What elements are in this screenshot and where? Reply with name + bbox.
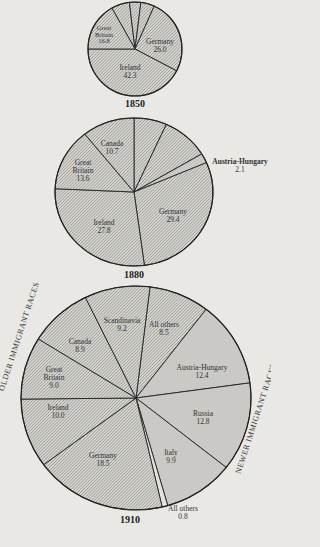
year-label-1880: 1880 <box>124 269 144 280</box>
label-1880-austria-hungary: Austria-Hungary2.1 <box>212 158 267 174</box>
label-1910-ireland: Ireland10.0 <box>47 404 68 420</box>
label-1910-all-others: All others8.5 <box>149 321 179 337</box>
year-label-1850: 1850 <box>125 98 145 109</box>
label-1850-germany: Germany26.0 <box>146 38 174 54</box>
label-1910-all-others-small: All others0.8 <box>168 505 198 521</box>
label-1910-great-britain: GreatBritain9.0 <box>44 366 65 390</box>
label-1880-canada: Canada10.7 <box>101 140 124 156</box>
label-1910-scandinavia: Scandinavia9.2 <box>104 317 141 333</box>
label-1880-great-britain: GreatBritain13.6 <box>73 159 94 183</box>
label-1910-russia: Russia12.8 <box>193 410 213 426</box>
label-1880-germany: Germany29.4 <box>159 208 187 224</box>
label-1910-canada: Canada8.9 <box>69 338 92 354</box>
label-1850-ireland: Ireland42.3 <box>119 64 140 80</box>
label-1910-austria-hungary: Austria-Hungary12.4 <box>177 364 228 380</box>
label-1910-italy: Italy9.9 <box>164 449 178 465</box>
label-1880-ireland: Ireland27.8 <box>93 219 114 235</box>
label-1910-germany: Germany18.5 <box>89 452 117 468</box>
label-1850-great-britain: GreatBritain16.8 <box>95 25 113 45</box>
year-label-1910: 1910 <box>120 514 140 525</box>
